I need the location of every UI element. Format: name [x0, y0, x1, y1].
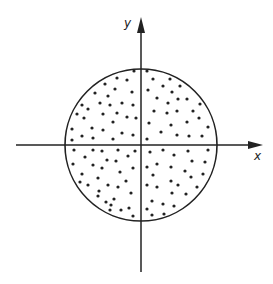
scatter-point: [155, 96, 158, 99]
scatter-point: [130, 90, 133, 93]
scatter-point: [148, 150, 151, 153]
scatter-point: [91, 136, 94, 139]
scatter-point: [175, 109, 178, 112]
scatter-point: [131, 133, 134, 136]
scatter-point: [186, 149, 189, 152]
scatter-point: [120, 131, 123, 134]
scatter-point: [198, 102, 201, 105]
scatter-point: [165, 111, 168, 114]
scatter-point: [108, 103, 111, 106]
scatter-point: [155, 185, 158, 188]
scatter-point: [169, 179, 172, 182]
y-axis-arrow-icon: [137, 17, 145, 33]
scatter-point: [170, 191, 173, 194]
x-axis-arrow-icon: [248, 141, 263, 149]
scatter-point: [197, 116, 200, 119]
scatter-point: [145, 165, 148, 168]
scatter-point: [125, 78, 128, 81]
scatter-point: [103, 82, 106, 85]
scatter-point: [93, 91, 96, 94]
scatter-point: [91, 148, 94, 151]
scatter-point: [169, 123, 172, 126]
scatter-point: [184, 192, 187, 195]
scatter-points: [70, 69, 209, 217]
scatter-point: [159, 130, 162, 133]
scatter-point: [90, 126, 93, 129]
scatter-point: [109, 203, 112, 206]
scatter-point: [120, 101, 123, 104]
scatter-point: [71, 162, 74, 165]
scatter-point: [82, 116, 85, 119]
scatter-point: [115, 76, 118, 79]
scatter-point: [201, 172, 204, 175]
scatter-point: [96, 176, 99, 179]
scatter-point: [114, 159, 117, 162]
scatter-point: [98, 101, 101, 104]
scatter-point: [100, 166, 103, 169]
scatter-point: [145, 137, 148, 140]
scatter-point: [166, 101, 169, 104]
scatter-point: [75, 112, 78, 115]
scatter-point: [70, 127, 73, 130]
scatter-point: [111, 137, 114, 140]
scatter-point: [83, 155, 86, 158]
scatter-point: [91, 163, 94, 166]
scatter-point: [126, 154, 129, 157]
scatter-point: [131, 166, 134, 169]
scatter-point: [175, 133, 178, 136]
scatter-point: [96, 194, 99, 197]
scatter-point: [116, 185, 119, 188]
scatter-point: [131, 214, 134, 217]
scatter-point: [133, 149, 136, 152]
scatter-point: [86, 107, 89, 110]
scatter-point: [105, 158, 108, 161]
scatter-point: [72, 148, 75, 151]
scatter-point: [161, 84, 164, 87]
scatter-point: [146, 88, 149, 91]
scatter-point: [115, 111, 118, 114]
scatter-point: [106, 94, 109, 97]
scatter-point: [178, 84, 181, 87]
scatter-point: [189, 175, 192, 178]
scatter-point: [119, 208, 122, 211]
scatter-point: [116, 148, 119, 151]
scatter-point: [150, 199, 153, 202]
scatter-point: [162, 212, 165, 215]
scatter-point: [111, 120, 114, 123]
scatter-point: [145, 207, 148, 210]
scatter-circle-diagram: x y: [0, 0, 273, 284]
scatter-point: [203, 160, 206, 163]
scatter-point: [191, 109, 194, 112]
scatter-point: [129, 191, 132, 194]
scatter-point: [145, 183, 148, 186]
scatter-point: [152, 109, 155, 112]
scatter-point: [151, 173, 154, 176]
scatter-point: [190, 159, 193, 162]
scatter-point: [172, 204, 175, 207]
scatter-point: [176, 97, 179, 100]
scatter-point: [185, 97, 188, 100]
scatter-point: [150, 213, 153, 216]
scatter-point: [206, 125, 209, 128]
x-axis-label: x: [253, 149, 262, 163]
scatter-point: [134, 116, 137, 119]
scatter-point: [118, 170, 121, 173]
scatter-point: [161, 148, 164, 151]
scatter-point: [100, 149, 103, 152]
scatter-point: [112, 197, 115, 200]
scatter-point: [145, 69, 148, 72]
scatter-point: [132, 69, 135, 72]
scatter-point: [176, 183, 179, 186]
scatter-point: [151, 77, 154, 80]
scatter-point: [86, 183, 89, 186]
scatter-point: [108, 208, 111, 211]
scatter-point: [78, 180, 81, 183]
scatter-point: [127, 206, 130, 209]
scatter-point: [113, 87, 116, 90]
scatter-point: [80, 172, 83, 175]
scatter-point: [170, 90, 173, 93]
scatter-point: [161, 202, 164, 205]
scatter-point: [206, 148, 209, 151]
scatter-point: [101, 112, 104, 115]
scatter-point: [187, 134, 190, 137]
